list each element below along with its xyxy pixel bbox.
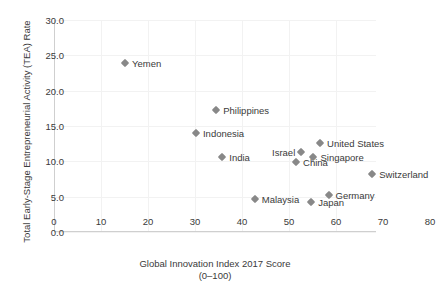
gridline-horizontal: [54, 232, 376, 233]
x-tick-label: 50: [284, 216, 295, 227]
x-tick-label: 40: [237, 216, 248, 227]
data-point-label: Singapore: [320, 152, 363, 163]
y-tick-label: 30.0: [46, 15, 65, 26]
x-tick-label: 0: [51, 216, 56, 227]
data-point-marker: [121, 59, 129, 67]
data-point-label: India: [229, 152, 250, 163]
data-point-label: Germany: [336, 189, 375, 200]
y-axis-title: Total Early-Stage Entrepreneurial Activi…: [21, 12, 32, 252]
data-point-label: Switzerland: [379, 169, 428, 180]
data-point-label: Israel: [272, 147, 295, 158]
gridline-horizontal: [54, 55, 376, 56]
data-point-label: Yemen: [132, 58, 161, 69]
x-axis-title-range: (0–100): [54, 270, 376, 282]
x-axis-spine: [54, 231, 376, 232]
y-tick-label: 20.0: [46, 85, 65, 96]
data-point-marker: [218, 153, 226, 161]
data-point-marker: [316, 139, 324, 147]
scatter-chart-figure: YemenPhilippinesIndonesiaIndiaIsraelChin…: [0, 0, 446, 296]
data-point-marker: [212, 106, 220, 114]
data-point-label: United States: [327, 137, 384, 148]
data-point-marker: [292, 158, 300, 166]
x-axis-title-main: Global Innovation Index 2017 Score: [54, 258, 376, 270]
data-point-marker: [192, 129, 200, 137]
y-tick-label: 5.0: [51, 191, 64, 202]
x-tick-label: 80: [425, 216, 436, 227]
gridline-horizontal: [54, 20, 376, 21]
gridline-horizontal: [54, 91, 376, 92]
x-tick-label: 20: [143, 216, 154, 227]
x-tick-label: 70: [378, 216, 389, 227]
data-point-marker: [307, 198, 315, 206]
x-tick-label: 30: [190, 216, 201, 227]
y-tick-label: 10.0: [46, 156, 65, 167]
data-point-marker: [297, 148, 305, 156]
x-tick-label: 10: [96, 216, 107, 227]
y-tick-label: 15.0: [46, 121, 65, 132]
y-tick-label: 0.0: [51, 227, 64, 238]
x-tick-label: 60: [331, 216, 342, 227]
data-point-label: Philippines: [223, 105, 269, 116]
y-tick-label: 25.0: [46, 50, 65, 61]
plot-area: YemenPhilippinesIndonesiaIndiaIsraelChin…: [54, 20, 376, 232]
data-point-label: Malaysia: [262, 193, 300, 204]
data-point-label: Indonesia: [203, 128, 244, 139]
data-point-marker: [368, 170, 376, 178]
x-axis-title: Global Innovation Index 2017 Score (0–10…: [54, 258, 376, 282]
